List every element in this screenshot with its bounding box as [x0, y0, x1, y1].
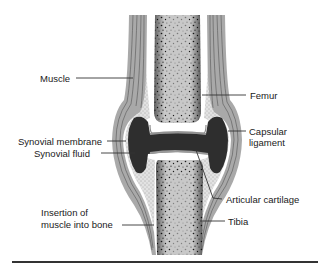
label-synovial-membrane: Synovial membrane [18, 136, 102, 147]
label-capsular-ligament-line1: Capsular [249, 126, 287, 137]
label-articular-cartilage: Articular cartilage [226, 194, 299, 205]
bottom-divider [12, 261, 318, 263]
label-insertion-line2: muscle into bone [41, 219, 113, 230]
label-insertion-line1: Insertion of [41, 207, 88, 218]
label-tibia: Tibia [228, 216, 248, 227]
label-synovial-fluid: Synovial fluid [34, 148, 90, 159]
tibia-bone [156, 160, 203, 255]
label-femur: Femur [250, 90, 277, 101]
femur-bone [154, 15, 201, 123]
label-muscle: Muscle [40, 73, 70, 84]
label-capsular-ligament-line2: ligament [249, 137, 285, 148]
